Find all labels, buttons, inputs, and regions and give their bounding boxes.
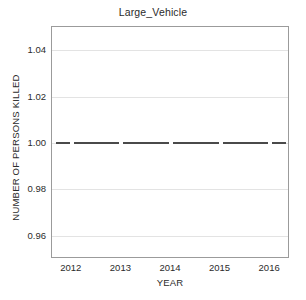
- gridline: [52, 189, 288, 190]
- y-axis-tick-label: 0.96: [20, 229, 46, 240]
- x-axis-tick-label: 2016: [249, 262, 289, 273]
- chart-title: Large_Vehicle: [0, 6, 306, 18]
- plot-area: [51, 26, 289, 258]
- data-point-marker: [268, 141, 272, 144]
- x-axis-tick-label: 2014: [150, 262, 190, 273]
- gridline: [52, 236, 288, 237]
- x-axis-label: YEAR: [51, 277, 289, 288]
- chart-figure: Large_Vehicle NUMBER OF PERSONS KILLED 0…: [0, 0, 306, 300]
- y-axis-tick-label: 1.02: [20, 90, 46, 101]
- gridline: [52, 97, 288, 98]
- data-point-marker: [70, 141, 74, 144]
- y-axis-tick-label: 1.04: [20, 44, 46, 55]
- data-point-marker: [169, 141, 173, 144]
- x-axis-tick-label: 2012: [51, 262, 91, 273]
- data-series-line: [56, 142, 286, 144]
- gridline: [52, 50, 288, 51]
- data-point-marker: [219, 141, 223, 144]
- x-axis-tick-label: 2013: [100, 262, 140, 273]
- y-axis-tick-label: 1.00: [20, 137, 46, 148]
- y-axis-tick-label: 0.98: [20, 183, 46, 194]
- data-point-marker: [119, 141, 123, 144]
- y-axis-tick-labels: 0.960.981.001.021.04: [16, 26, 46, 258]
- x-axis-tick-label: 2015: [200, 262, 240, 273]
- x-axis-tick-labels: 20122013201420152016: [51, 262, 289, 276]
